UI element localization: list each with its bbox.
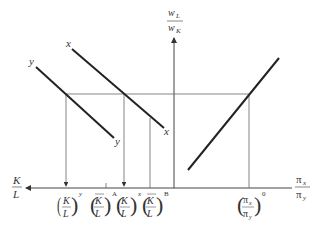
tick-label-kx: ( K L ) x	[116, 190, 142, 219]
right-axis-label: π x π y	[295, 173, 310, 202]
svg-text:): )	[130, 192, 137, 217]
svg-text:L: L	[62, 208, 69, 219]
curve-x-label-start: x	[65, 37, 71, 49]
curve-x	[72, 49, 164, 128]
svg-text:π: π	[296, 188, 302, 200]
svg-text:π: π	[296, 173, 302, 185]
svg-text:x: x	[302, 179, 307, 187]
tick-label-ka: ( K L ) A	[90, 190, 117, 219]
vertical-axis-label: w L w K	[167, 7, 183, 35]
left-axis-label: K L	[12, 174, 22, 200]
svg-text:): )	[104, 192, 111, 217]
svg-text:L: L	[175, 12, 180, 20]
tick-label-price-ratio: ( π x π y ) 0	[237, 190, 266, 220]
factor-price-diagram: y y x x w L w K K L π x π y ( K L ) y ( …	[0, 0, 321, 229]
curve-y	[36, 67, 114, 138]
svg-text:π: π	[243, 194, 248, 205]
svg-text:K: K	[12, 174, 21, 186]
svg-text:K: K	[62, 195, 71, 206]
tick-label-kb: ( K L ) B	[142, 190, 169, 219]
diagram-canvas: y y x x w L w K K L π x π y ( K L ) y ( …	[0, 0, 321, 229]
svg-text:): )	[156, 192, 163, 217]
curve-y-label-end: y	[114, 135, 120, 147]
svg-text:): )	[71, 192, 78, 217]
svg-text:0: 0	[262, 190, 266, 198]
svg-text:K: K	[175, 27, 181, 35]
svg-text:π: π	[243, 208, 248, 219]
curve-y-label-start: y	[28, 55, 34, 67]
svg-text:K: K	[146, 195, 155, 206]
curve-x-label-end: x	[163, 125, 169, 137]
svg-text:w: w	[168, 7, 175, 18]
svg-text:K: K	[94, 195, 103, 206]
svg-text:K: K	[120, 195, 129, 206]
price-curve	[188, 58, 279, 170]
svg-text:L: L	[12, 188, 19, 200]
svg-text:L: L	[146, 208, 153, 219]
svg-text:L: L	[120, 208, 127, 219]
svg-text:(: (	[57, 192, 61, 217]
svg-text:L: L	[94, 208, 101, 219]
svg-text:): )	[254, 192, 261, 217]
svg-text:w: w	[168, 22, 175, 33]
svg-text:B: B	[164, 190, 169, 198]
svg-text:y: y	[78, 190, 83, 198]
svg-text:y: y	[302, 194, 307, 202]
svg-text:x: x	[248, 200, 252, 206]
svg-text:y: y	[248, 214, 252, 220]
tick-label-ky: ( K L ) y	[57, 190, 83, 219]
